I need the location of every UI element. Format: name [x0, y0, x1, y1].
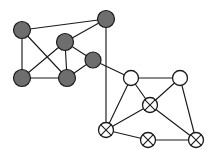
graph-node-white[interactable]	[173, 71, 188, 86]
graph-node-white[interactable]	[124, 71, 139, 86]
graph-node-gray[interactable]	[57, 34, 74, 51]
graph-node-crossed[interactable]	[143, 98, 158, 113]
graph-edge	[22, 19, 106, 30]
graph-edge	[180, 78, 196, 140]
node-layer	[14, 11, 204, 148]
graph-node-crossed[interactable]	[189, 133, 204, 148]
graph-canvas	[0, 0, 216, 155]
graph-node-gray[interactable]	[14, 70, 31, 87]
graph-node-gray[interactable]	[98, 11, 115, 28]
graph-node-crossed[interactable]	[99, 123, 114, 138]
gray-vertex-circle	[85, 52, 101, 68]
graph-figure	[0, 0, 216, 155]
white-vertex-circle	[173, 71, 188, 86]
graph-edge	[150, 105, 196, 140]
edge-layer	[22, 19, 196, 140]
graph-node-crossed[interactable]	[141, 133, 156, 148]
white-vertex-circle	[124, 71, 139, 86]
gray-vertex-circle	[14, 22, 31, 39]
gray-vertex-circle	[98, 11, 115, 28]
gray-vertex-circle	[57, 34, 74, 51]
graph-node-gray[interactable]	[59, 70, 76, 87]
gray-vertex-circle	[14, 70, 31, 87]
graph-node-gray[interactable]	[14, 22, 31, 39]
gray-vertex-circle	[59, 70, 76, 87]
graph-node-gray[interactable]	[85, 52, 101, 68]
graph-edge	[106, 78, 131, 130]
